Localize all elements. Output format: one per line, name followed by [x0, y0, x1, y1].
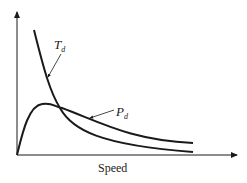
torque-label-subscript: d [61, 45, 65, 54]
power-curve [17, 104, 193, 155]
torque-curve-label: Td [54, 37, 65, 54]
diagram-graphics [0, 0, 247, 183]
power-leader-line [90, 110, 114, 118]
power-label-subscript: d [124, 112, 128, 121]
power-label-main: P [116, 104, 124, 119]
torque-leader-line [48, 54, 61, 77]
power-curve-label: Pd [116, 104, 128, 121]
speed-torque-power-diagram: Td Pd Speed [0, 0, 247, 183]
x-axis-label: Speed [98, 161, 127, 176]
